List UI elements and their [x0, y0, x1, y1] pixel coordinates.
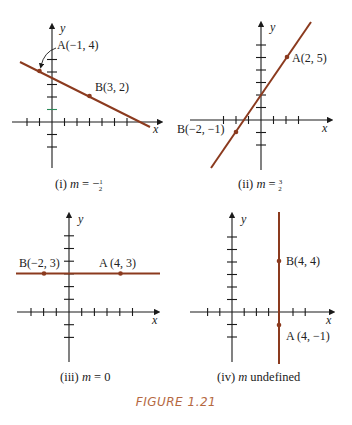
- panel-iii: y x B(−2, 3) A (4, 3) (iii) m = 0: [16, 212, 160, 384]
- point-b: [87, 94, 92, 99]
- caption-iii: (iii) m = 0: [60, 370, 110, 384]
- caption-iv: (iv) m undefined: [217, 370, 301, 384]
- label-point-b: B(4, 4): [286, 254, 320, 268]
- point-b: [234, 130, 239, 135]
- y-axis-label: y: [59, 21, 66, 35]
- label-point-b: B(−2, 3): [19, 256, 60, 270]
- point-b: [277, 259, 282, 264]
- point-a: [118, 271, 123, 276]
- y-axis-label: y: [77, 212, 84, 226]
- point-b: [42, 271, 47, 276]
- leader-arrow: [41, 48, 56, 66]
- panel-ii: y x A(2, 5) B(−2, −1) (ii) m = 32: [177, 20, 330, 193]
- figure-1-21: y x A(−1, 4) B(3, 2) (i) m = −12 y x A(2…: [0, 0, 352, 425]
- figure-title: FIGURE 1.21: [0, 395, 352, 409]
- caption-i: (i) m = −12: [55, 177, 103, 193]
- label-point-a: A(2, 5): [292, 51, 327, 65]
- y-axis-label: y: [240, 212, 247, 226]
- y-axis-label: y: [269, 20, 276, 34]
- x-axis-label: x: [152, 122, 159, 136]
- panel-i: y x A(−1, 4) B(3, 2) (i) m = −12: [12, 21, 160, 193]
- point-a: [285, 55, 290, 60]
- x-axis-label: x: [321, 121, 328, 135]
- x-axis-label: x: [151, 313, 158, 327]
- figure-canvas: y x A(−1, 4) B(3, 2) (i) m = −12 y x A(2…: [0, 0, 352, 425]
- label-point-a: A(−1, 4): [57, 38, 98, 52]
- label-point-b: B(−2, −1): [177, 122, 225, 136]
- label-point-a: A (4, −1): [286, 329, 330, 343]
- axes: [17, 215, 157, 362]
- caption-ii: (ii) m = 32: [238, 177, 283, 193]
- label-point-b: B(3, 2): [95, 80, 129, 94]
- panel-iv: y x B(4, 4) A (4, −1) (iv) m undefined: [190, 212, 332, 384]
- point-a: [37, 69, 42, 74]
- label-point-a: A (4, 3): [99, 256, 136, 270]
- x-axis-label: x: [325, 313, 332, 327]
- point-a: [277, 323, 282, 328]
